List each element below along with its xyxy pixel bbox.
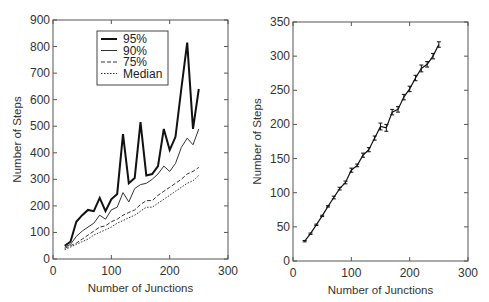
legend-label: Median	[123, 67, 162, 81]
legend: 95%90%75%Median	[97, 31, 168, 85]
series-line-mean	[305, 45, 439, 242]
x-tick-label: 100	[101, 264, 121, 278]
error-bar	[303, 241, 307, 242]
x-tick-label: 300	[458, 266, 478, 280]
series-line-90pct	[65, 129, 199, 247]
x-axis-label: Number of Junctions	[328, 284, 434, 296]
error-bar	[338, 187, 342, 190]
y-tick-label: 900	[30, 13, 50, 27]
error-bar	[320, 215, 324, 216]
y-tick-label: 150	[270, 152, 290, 166]
y-tick-label: 300	[270, 49, 290, 63]
x-tick-label: 200	[160, 264, 180, 278]
y-tick-label: 400	[30, 146, 50, 160]
figure: 01002003004005006007008009000100200300Nu…	[0, 0, 489, 302]
y-tick-label: 800	[30, 40, 50, 54]
y-tick-label: 300	[30, 172, 50, 186]
y-tick-label: 350	[270, 15, 290, 29]
error-bar	[344, 181, 348, 184]
x-tick-label: 200	[400, 266, 420, 280]
error-bar	[332, 196, 336, 199]
y-tick-label: 50	[277, 220, 291, 234]
y-tick-label: 250	[270, 83, 290, 97]
error-bar	[309, 233, 313, 234]
y-axis-label: Number of Steps	[11, 96, 23, 183]
x-tick-label: 0	[50, 264, 57, 278]
right-chart: 0501001502002503003500100200300Number of…	[251, 15, 478, 296]
x-tick-label: 0	[290, 266, 297, 280]
x-axis-label: Number of Junctions	[88, 282, 194, 294]
y-tick-label: 500	[30, 119, 50, 133]
error-bar	[326, 206, 330, 207]
error-bar	[390, 109, 394, 114]
y-tick-label: 100	[270, 186, 290, 200]
error-bar	[314, 224, 318, 225]
error-bar	[355, 164, 359, 167]
left-chart: 01002003004005006007008009000100200300Nu…	[11, 13, 238, 294]
y-axis-label: Number of Steps	[251, 98, 263, 185]
y-tick-label: 700	[30, 66, 50, 80]
y-tick-label: 600	[30, 93, 50, 107]
y-tick-label: 100	[30, 225, 50, 239]
y-tick-label: 200	[30, 199, 50, 213]
x-tick-label: 300	[218, 264, 238, 278]
y-tick-label: 200	[270, 117, 290, 131]
plot-frame	[293, 22, 468, 261]
x-tick-label: 100	[341, 266, 361, 280]
